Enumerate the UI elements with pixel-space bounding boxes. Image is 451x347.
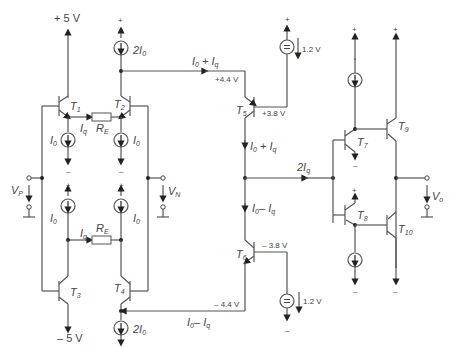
svg-text:+: + bbox=[66, 181, 71, 190]
svg-text:+: + bbox=[285, 15, 290, 24]
i0-t2-label: I0 bbox=[133, 134, 140, 147]
t6-base-voltage: – 3.8 V bbox=[262, 241, 288, 250]
svg-text:–: – bbox=[119, 167, 124, 176]
t9-label: T9 bbox=[398, 120, 409, 133]
current-source-i0-t4 bbox=[114, 188, 128, 240]
svg-text:–: – bbox=[393, 287, 398, 296]
vp-label: VP bbox=[11, 184, 23, 197]
t3-label: T3 bbox=[70, 286, 81, 299]
current-source-2i0-bottom bbox=[114, 311, 128, 343]
current-source-t8 bbox=[348, 225, 362, 282]
bottom-2i0-label: 2I0 bbox=[132, 323, 146, 336]
emitter-degeneration-bottom bbox=[68, 236, 121, 244]
iq-bottom-label: Iq bbox=[80, 227, 87, 241]
vp-terminal[interactable] bbox=[27, 176, 31, 180]
t10-label: T10 bbox=[398, 223, 413, 236]
i0-t3-label: I0 bbox=[50, 212, 57, 225]
top-2i0-label: 2I0 bbox=[132, 44, 146, 57]
transistor-t2 bbox=[121, 96, 148, 117]
transistor-t8 bbox=[333, 196, 355, 225]
t2-label: T2 bbox=[114, 98, 125, 111]
vref-bottom-label: 1.2 V bbox=[303, 297, 322, 306]
supply-minus5v-label: – 5 V bbox=[57, 332, 83, 344]
re-top-label: RE bbox=[96, 122, 109, 135]
transistor-t3 bbox=[59, 240, 68, 330]
transistor-t1 bbox=[42, 96, 68, 117]
svg-text:–: – bbox=[353, 161, 358, 170]
vn-label: VN bbox=[168, 185, 181, 198]
out-2iq-label: 2Iq bbox=[296, 161, 310, 175]
vn-terminal[interactable] bbox=[161, 176, 165, 180]
node-top-voltage: +4.4 V bbox=[215, 75, 239, 84]
svg-text:+: + bbox=[119, 181, 124, 190]
voltage-ref-bottom bbox=[280, 252, 299, 318]
vo-label: Vo bbox=[432, 190, 443, 203]
current-source-i0-t2 bbox=[114, 117, 128, 162]
supply-plus5v-label: + 5 V bbox=[54, 12, 81, 24]
t5-down-current: I0 + Iq bbox=[250, 140, 277, 154]
re-bottom-label: RE bbox=[96, 222, 109, 235]
t6-up-current: I0– Iq bbox=[252, 202, 275, 216]
svg-text:+: + bbox=[393, 25, 398, 34]
current-source-i0-t3 bbox=[61, 188, 75, 240]
vo-terminal[interactable] bbox=[425, 176, 429, 180]
t5-label: T5 bbox=[236, 104, 247, 117]
svg-text:–: – bbox=[285, 326, 290, 335]
t1-label: T1 bbox=[70, 100, 81, 113]
bottom-branch-current: I0– Iq bbox=[187, 316, 210, 330]
current-source-t7 bbox=[348, 36, 362, 129]
svg-text:+: + bbox=[118, 16, 123, 25]
transistor-t4 bbox=[121, 240, 130, 311]
transistor-t7 bbox=[333, 129, 355, 157]
top-branch-current: I0 + Iq bbox=[192, 55, 219, 69]
t4-label: T4 bbox=[114, 282, 125, 295]
current-source-i0-t1 bbox=[61, 117, 75, 162]
cross-wire-vp bbox=[30, 106, 59, 291]
voltage-ref-top bbox=[280, 28, 298, 107]
svg-text:–: – bbox=[66, 167, 71, 176]
current-source-2i0-top bbox=[114, 30, 128, 96]
iq-top-label: Iq bbox=[80, 122, 87, 136]
transistor-t10 bbox=[355, 212, 396, 282]
t7-label: T7 bbox=[357, 136, 369, 149]
i0-t1-label: I0 bbox=[50, 134, 57, 147]
svg-text:+: + bbox=[352, 186, 357, 195]
vref-top-label: 1.2 V bbox=[302, 45, 321, 54]
i0-t4-label: I0 bbox=[133, 212, 140, 225]
svg-text:–: – bbox=[353, 287, 358, 296]
t5-base-voltage: +3.8 V bbox=[262, 109, 286, 118]
circuit-diagram: + 5 V T1 T2 Iq RE – I0 – I0 bbox=[0, 0, 451, 347]
emitter-degeneration-top bbox=[68, 113, 121, 121]
t6-label: T6 bbox=[236, 248, 247, 261]
node-bottom-voltage: – 4.4 V bbox=[214, 300, 240, 309]
svg-text:+: + bbox=[352, 25, 357, 34]
t8-label: T8 bbox=[357, 209, 368, 222]
